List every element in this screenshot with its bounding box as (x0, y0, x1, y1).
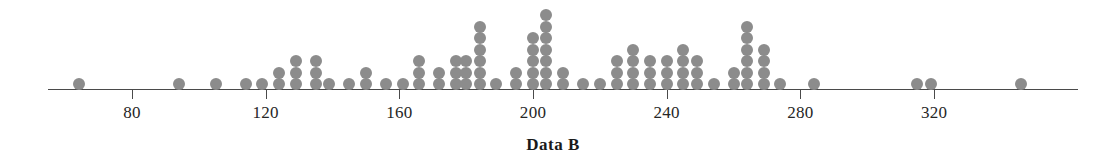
data-point-dot (708, 78, 720, 90)
data-point-dot (1015, 78, 1027, 90)
data-point-dot (728, 67, 740, 79)
data-point-dot (527, 67, 539, 79)
data-point-dot (691, 78, 703, 90)
data-point-dot (691, 55, 703, 67)
data-point-dot (73, 78, 85, 90)
x-axis-tick-label: 80 (123, 103, 141, 123)
data-point-dot (677, 44, 689, 56)
data-point-dot (741, 78, 753, 90)
data-point-dot (644, 55, 656, 67)
data-point-dot (557, 67, 569, 79)
data-point-dot (413, 67, 425, 79)
data-point-dot (474, 55, 486, 67)
data-point-dot (527, 78, 539, 90)
data-point-dot (661, 67, 673, 79)
data-point-dot (527, 32, 539, 44)
data-point-dot (594, 78, 606, 90)
data-point-dot (310, 67, 322, 79)
data-point-dot (540, 67, 552, 79)
data-point-dot (360, 67, 372, 79)
data-point-dot (310, 78, 322, 90)
x-axis-tick (132, 90, 133, 99)
data-point-dot (741, 44, 753, 56)
data-point-dot (474, 78, 486, 90)
data-point-dot (474, 67, 486, 79)
x-axis-tick (399, 90, 400, 99)
data-point-dot (527, 44, 539, 56)
data-point-dot (741, 21, 753, 33)
x-axis-tick (266, 90, 267, 99)
data-point-dot (741, 55, 753, 67)
data-point-dot (540, 9, 552, 21)
data-point-dot (173, 78, 185, 90)
data-point-dot (290, 67, 302, 79)
x-axis-tick-label: 200 (520, 103, 546, 123)
data-point-dot (460, 55, 472, 67)
data-point-dot (741, 32, 753, 44)
data-point-dot (540, 55, 552, 67)
data-point-dot (758, 55, 770, 67)
data-point-dot (413, 55, 425, 67)
data-point-dot (728, 78, 740, 90)
x-axis-tick-label: 120 (252, 103, 278, 123)
data-point-dot (433, 67, 445, 79)
data-point-dot (758, 67, 770, 79)
data-point-dot (925, 78, 937, 90)
data-point-dot (557, 78, 569, 90)
data-point-dot (677, 67, 689, 79)
data-point-dot (510, 67, 522, 79)
data-point-dot (611, 78, 623, 90)
data-point-dot (741, 67, 753, 79)
data-point-dot (808, 78, 820, 90)
data-point-dot (474, 32, 486, 44)
x-axis-title: Data B (526, 135, 580, 155)
x-axis-tick (667, 90, 668, 99)
data-point-dot (380, 78, 392, 90)
data-point-dot (210, 78, 222, 90)
data-point-dot (627, 67, 639, 79)
data-point-dot (661, 78, 673, 90)
data-point-dot (611, 67, 623, 79)
x-axis-tick-label: 280 (787, 103, 813, 123)
data-point-dot (273, 78, 285, 90)
data-point-dot (397, 78, 409, 90)
data-point-dot (290, 55, 302, 67)
x-axis-tick (934, 90, 935, 99)
data-point-dot (677, 55, 689, 67)
x-axis-tick (533, 90, 534, 99)
data-point-dot (474, 21, 486, 33)
data-point-dot (627, 55, 639, 67)
data-point-dot (758, 44, 770, 56)
data-point-dot (644, 78, 656, 90)
data-point-dot (540, 21, 552, 33)
data-point-dot (627, 44, 639, 56)
x-axis-tick (800, 90, 801, 99)
data-point-dot (661, 55, 673, 67)
data-point-dot (474, 44, 486, 56)
data-point-dot (527, 55, 539, 67)
data-point-dot (360, 78, 372, 90)
data-point-dot (691, 67, 703, 79)
data-point-dot (310, 55, 322, 67)
x-axis-tick-label: 240 (654, 103, 680, 123)
data-point-dot (611, 55, 623, 67)
dot-plot-chart: 80120160200240280320 Data B (0, 0, 1099, 164)
data-point-dot (240, 78, 252, 90)
data-point-dot (644, 67, 656, 79)
data-point-dot (540, 44, 552, 56)
data-point-dot (758, 78, 770, 90)
data-point-dot (273, 67, 285, 79)
data-point-dot (460, 67, 472, 79)
x-axis-tick-label: 320 (921, 103, 947, 123)
x-axis-tick-label: 160 (386, 103, 412, 123)
data-point-dot (290, 78, 302, 90)
data-point-dot (540, 32, 552, 44)
